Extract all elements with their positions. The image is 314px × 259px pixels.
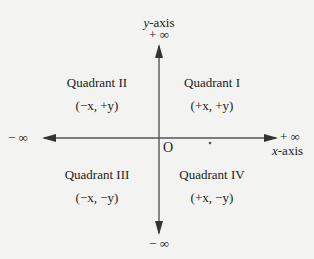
y-neg-infinity: − ∞ [149, 237, 169, 251]
quadrant-2-signs: (−x, +y) [76, 99, 119, 113]
x-axis-label: x-axis [272, 144, 303, 158]
quadrant-1-name: Quadrant I [184, 76, 240, 90]
quadrant-4-name: Quadrant IV [179, 168, 244, 182]
y-axis-up-arrow-icon [155, 44, 163, 58]
quadrant-1-signs: (+x, +y) [191, 99, 234, 113]
quadrant-3-signs: (−x, −y) [76, 191, 119, 205]
x-axis-left-arrow-icon [42, 134, 56, 142]
x-axis-right-arrow-icon [264, 134, 278, 142]
quadrant-3-name: Quadrant III [65, 168, 130, 182]
x-neg-infinity: − ∞ [8, 131, 28, 145]
x-pos-infinity: + ∞ [280, 130, 300, 144]
dot-mark [209, 142, 212, 145]
quadrant-4-signs: (+x, −y) [191, 191, 234, 205]
quadrant-2-name: Quadrant II [67, 76, 127, 90]
origin-label: O [163, 141, 173, 155]
y-pos-infinity: + ∞ [149, 28, 169, 42]
y-axis-down-arrow-icon [155, 221, 163, 235]
